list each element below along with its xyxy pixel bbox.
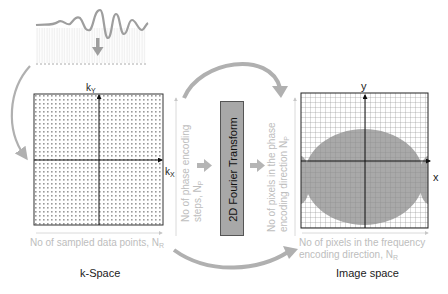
image-axis-y-label: y: [361, 80, 367, 92]
sampled-points-label: No of sampled data points, NR: [30, 237, 164, 252]
phase-encoding-steps-label: No of phase encoding steps, NP: [180, 125, 207, 222]
fourier-transform-box: 2D Fourier Transform: [220, 101, 244, 236]
image-space-title: Image space: [336, 267, 399, 279]
kspace-axis-x-label: kX: [165, 166, 175, 178]
kspace-title: k-Space: [80, 267, 120, 279]
kspace-grid: [34, 94, 163, 225]
arrow-out-of-ft-icon: [250, 159, 265, 172]
curved-arrow-bottom: [174, 250, 288, 268]
image-axis-x-label: x: [433, 171, 439, 183]
signal-waveform: [36, 10, 148, 64]
image-space-grid: [290, 93, 439, 228]
kspace-axis-y-label: kY: [86, 82, 96, 94]
frequency-pixels-label: No of pixels in the frequency encoding d…: [299, 237, 425, 264]
fourier-transform-label: 2D Fourier Transform: [221, 102, 245, 237]
phase-pixels-label: No of pixels in the phase encoding direc…: [266, 122, 293, 232]
curved-arrow-signal-to-kspace: [12, 66, 30, 155]
curved-arrow-top: [184, 64, 280, 98]
